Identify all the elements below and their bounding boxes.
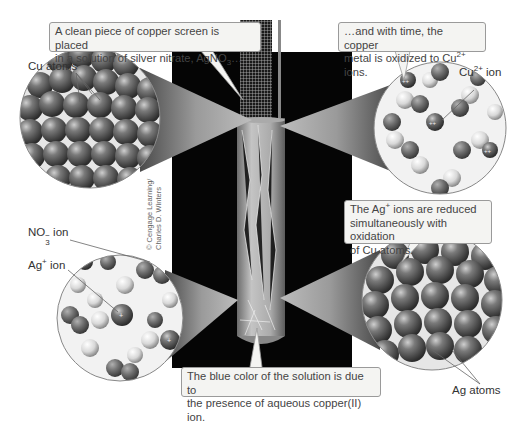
photo-credit: © Cengage Learning/ Charles D. Winters bbox=[146, 179, 163, 250]
label-cu-ion: Cu2+ ion bbox=[459, 66, 501, 78]
callout-copper-screen: A clean piece of copper screen is placed… bbox=[49, 22, 261, 52]
svg-text:++: ++ bbox=[429, 120, 437, 126]
callout-ag-reduced: The Ag+ ions are reduced simultaneously … bbox=[344, 200, 492, 244]
svg-text:+: + bbox=[167, 337, 171, 344]
label-ag-atoms: Ag atoms bbox=[452, 384, 501, 396]
ag-ion-solution-circle: ++ bbox=[57, 254, 183, 381]
test-tube bbox=[237, 117, 285, 344]
callout-copper-oxidized: …and with time, the copper metal is oxid… bbox=[338, 22, 486, 52]
label-no3-ion: NO−3 ion bbox=[28, 226, 68, 246]
label-ag-ion: Ag+ ion bbox=[28, 259, 65, 271]
label-cu-atoms: Cu atoms bbox=[28, 60, 77, 72]
callout-blue-color: The blue color of the solution is due to… bbox=[181, 367, 381, 397]
svg-text:++: ++ bbox=[484, 148, 492, 154]
svg-text:+: + bbox=[119, 312, 123, 319]
cu-ion-solution-circle: ++++++ bbox=[374, 62, 506, 197]
